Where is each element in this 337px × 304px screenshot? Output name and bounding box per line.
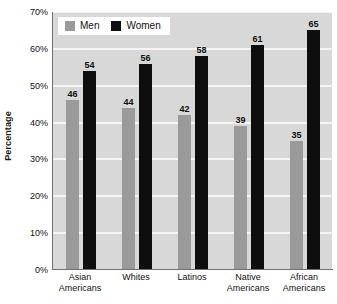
bar-women-african-americans: 65 <box>307 30 320 270</box>
bar-value-label: 65 <box>308 19 318 29</box>
bar-women-whites: 56 <box>139 64 152 270</box>
x-tick-line-2: Americans <box>227 283 270 294</box>
legend-label-men: Men <box>80 20 99 31</box>
x-axis-tick-latinos: Latinos <box>177 272 206 283</box>
bars-layer: 46544456425839613565 <box>53 12 332 270</box>
bar-value-label: 39 <box>235 115 245 125</box>
y-axis-tick-70pct: 70% <box>14 7 48 17</box>
x-tick-line-1: Latinos <box>177 272 206 282</box>
legend-swatch-men-icon <box>65 21 75 31</box>
bar-value-label: 56 <box>140 53 150 63</box>
x-axis-line <box>52 269 333 270</box>
legend-label-women: Women <box>126 20 160 31</box>
bar-value-label: 44 <box>123 97 133 107</box>
bar-men-latinos: 42 <box>178 115 191 270</box>
bar-women-latinos: 58 <box>195 56 208 270</box>
bar-men-asian-americans: 46 <box>66 100 79 270</box>
x-tick-line-1: Asian <box>69 272 92 282</box>
bar-value-label: 42 <box>179 104 189 114</box>
bar-value-label: 46 <box>67 89 77 99</box>
plot-area: 46544456425839613565 <box>52 12 332 270</box>
bar-men-native-americans: 39 <box>234 126 247 270</box>
y-axis-tick-50pct: 50% <box>14 81 48 91</box>
x-tick-line-1: Native <box>235 272 261 282</box>
bar-women-asian-americans: 54 <box>83 71 96 270</box>
y-axis-tick-30pct: 30% <box>14 154 48 164</box>
y-axis-tick-60pct: 60% <box>14 44 48 54</box>
bar-women-native-americans: 61 <box>251 45 264 270</box>
y-axis-tick-40pct: 40% <box>14 118 48 128</box>
x-tick-line-2: Americans <box>59 283 102 294</box>
y-axis-tick-labels: 0%10%20%30%40%50%60%70% <box>14 12 48 270</box>
y-axis-tick-10pct: 10% <box>14 228 48 238</box>
bar-value-label: 58 <box>196 45 206 55</box>
legend-swatch-women-icon <box>111 21 121 31</box>
y-axis-tick-20pct: 20% <box>14 191 48 201</box>
x-axis-tick-native-americans: NativeAmericans <box>227 272 270 294</box>
bar-men-african-americans: 35 <box>290 141 303 270</box>
x-axis-tick-asian-americans: AsianAmericans <box>59 272 102 294</box>
x-axis-tick-whites: Whites <box>122 272 150 283</box>
y-axis-title-label: Percentage <box>3 111 13 161</box>
x-tick-line-1: Whites <box>122 272 150 282</box>
chart-legend: Men Women <box>58 17 170 35</box>
bar-value-label: 35 <box>291 130 301 140</box>
legend-entry-men: Men <box>65 20 99 31</box>
bar-value-label: 61 <box>252 34 262 44</box>
legend-entry-women: Women <box>111 20 160 31</box>
x-tick-line-1: African <box>290 272 318 282</box>
bar-men-whites: 44 <box>122 108 135 270</box>
y-axis-tick-0pct: 0% <box>14 265 48 275</box>
bar-value-label: 54 <box>84 60 94 70</box>
bar-chart: Percentage 0%10%20%30%40%50%60%70% 46544… <box>0 0 337 304</box>
x-axis-tick-labels: AsianAmericansWhitesLatinosNativeAmerica… <box>52 272 333 304</box>
x-axis-tick-african-americans: AfricanAmericans <box>283 272 326 294</box>
x-tick-line-2: Americans <box>283 283 326 294</box>
